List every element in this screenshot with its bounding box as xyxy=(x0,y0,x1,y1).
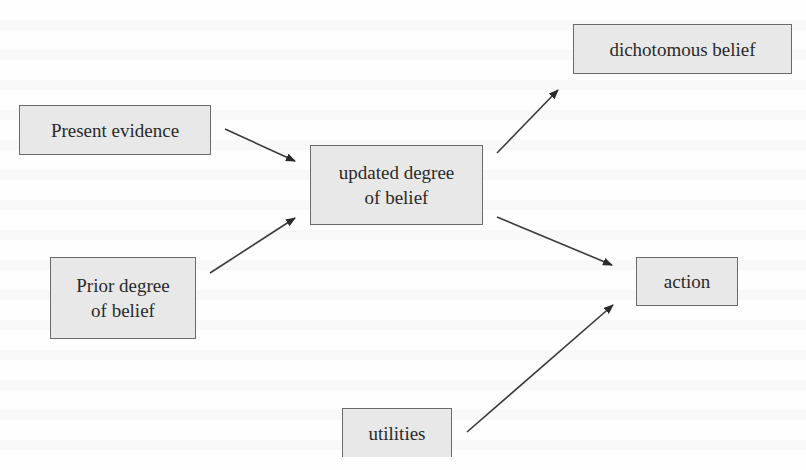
node-prior-degree-line2: of belief xyxy=(91,298,155,323)
arrow-present-evidence-to-updated-belief xyxy=(225,129,295,161)
arrow-updated-belief-to-dichotomous-belief xyxy=(497,90,558,153)
node-utilities-label: utilities xyxy=(369,421,426,446)
node-action-label: action xyxy=(664,269,710,294)
arrow-prior-belief-to-updated-belief xyxy=(210,218,295,273)
node-present-evidence-label: Present evidence xyxy=(51,118,179,143)
node-dichotomous-belief: dichotomous belief xyxy=(573,24,792,74)
node-prior-degree-of-belief: Prior degree of belief xyxy=(50,257,196,339)
node-updated-degree-of-belief: updated degree of belief xyxy=(310,145,483,225)
node-updated-degree-line2: of belief xyxy=(365,185,429,210)
arrow-updated-belief-to-action xyxy=(497,217,612,265)
node-present-evidence: Present evidence xyxy=(19,105,211,155)
node-updated-degree-line1: updated degree xyxy=(339,160,455,185)
diagram-canvas: Present evidence Prior degree of belief … xyxy=(0,0,806,470)
node-action: action xyxy=(636,257,738,306)
node-utilities: utilities xyxy=(342,408,452,457)
arrow-utilities-to-action xyxy=(467,305,613,432)
node-dichotomous-belief-label: dichotomous belief xyxy=(609,37,755,62)
node-prior-degree-line1: Prior degree xyxy=(76,273,169,298)
